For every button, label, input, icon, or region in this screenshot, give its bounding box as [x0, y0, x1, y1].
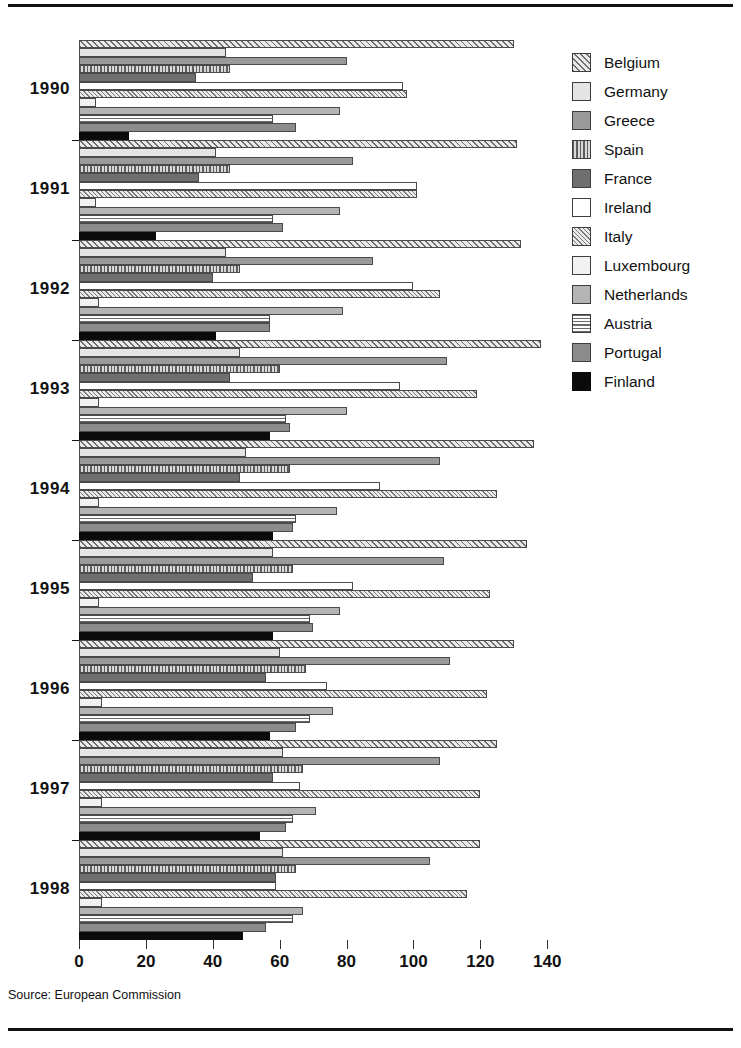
bar-finland[interactable]	[79, 132, 129, 140]
bar-germany[interactable]	[79, 348, 240, 356]
bar-italy[interactable]	[79, 290, 440, 298]
bar-ireland[interactable]	[79, 782, 300, 790]
bar-italy[interactable]	[79, 590, 490, 598]
bar-austria[interactable]	[79, 315, 270, 323]
legend-item-italy[interactable]: Italy	[572, 222, 737, 251]
bar-greece[interactable]	[79, 257, 373, 265]
bar-luxembourg[interactable]	[79, 798, 102, 806]
bar-ireland[interactable]	[79, 682, 327, 690]
bar-netherlands[interactable]	[79, 807, 316, 815]
bar-austria[interactable]	[79, 615, 310, 623]
legend-item-portugal[interactable]: Portugal	[572, 338, 737, 367]
bar-greece[interactable]	[79, 157, 353, 165]
bar-germany[interactable]	[79, 548, 273, 556]
bar-italy[interactable]	[79, 190, 417, 198]
bar-luxembourg[interactable]	[79, 398, 99, 406]
bar-france[interactable]	[79, 573, 253, 581]
bar-spain[interactable]	[79, 465, 290, 473]
bar-portugal[interactable]	[79, 123, 296, 131]
bar-finland[interactable]	[79, 332, 216, 340]
bar-austria[interactable]	[79, 715, 310, 723]
bar-ireland[interactable]	[79, 482, 380, 490]
bar-greece[interactable]	[79, 357, 447, 365]
bar-greece[interactable]	[79, 757, 440, 765]
bar-spain[interactable]	[79, 65, 230, 73]
bar-portugal[interactable]	[79, 323, 270, 331]
bar-greece[interactable]	[79, 857, 430, 865]
bar-spain[interactable]	[79, 165, 230, 173]
bar-france[interactable]	[79, 73, 196, 81]
bar-greece[interactable]	[79, 657, 450, 665]
bar-austria[interactable]	[79, 815, 293, 823]
bar-portugal[interactable]	[79, 523, 293, 531]
bar-germany[interactable]	[79, 648, 280, 656]
bar-belgium[interactable]	[79, 640, 514, 648]
bar-austria[interactable]	[79, 915, 293, 923]
bar-finland[interactable]	[79, 532, 273, 540]
bar-portugal[interactable]	[79, 723, 296, 731]
bar-portugal[interactable]	[79, 223, 283, 231]
bar-netherlands[interactable]	[79, 607, 340, 615]
bar-ireland[interactable]	[79, 282, 413, 290]
bar-austria[interactable]	[79, 515, 296, 523]
bar-ireland[interactable]	[79, 82, 403, 90]
bar-spain[interactable]	[79, 765, 303, 773]
bar-germany[interactable]	[79, 148, 216, 156]
bar-italy[interactable]	[79, 890, 467, 898]
bar-luxembourg[interactable]	[79, 898, 102, 906]
bar-luxembourg[interactable]	[79, 198, 96, 206]
bar-netherlands[interactable]	[79, 207, 340, 215]
bar-portugal[interactable]	[79, 623, 313, 631]
bar-belgium[interactable]	[79, 340, 541, 348]
legend-item-netherlands[interactable]: Netherlands	[572, 280, 737, 309]
bar-italy[interactable]	[79, 390, 477, 398]
bar-france[interactable]	[79, 473, 240, 481]
bar-italy[interactable]	[79, 90, 407, 98]
bar-italy[interactable]	[79, 490, 497, 498]
bar-luxembourg[interactable]	[79, 298, 99, 306]
bar-ireland[interactable]	[79, 882, 276, 890]
bar-belgium[interactable]	[79, 740, 497, 748]
bar-spain[interactable]	[79, 665, 306, 673]
legend-item-austria[interactable]: Austria	[572, 309, 737, 338]
legend-item-france[interactable]: France	[572, 164, 737, 193]
bar-portugal[interactable]	[79, 923, 266, 931]
bar-belgium[interactable]	[79, 140, 517, 148]
legend-item-germany[interactable]: Germany	[572, 77, 737, 106]
bar-germany[interactable]	[79, 848, 283, 856]
bar-france[interactable]	[79, 273, 213, 281]
bar-ireland[interactable]	[79, 582, 353, 590]
bar-greece[interactable]	[79, 457, 440, 465]
bar-belgium[interactable]	[79, 540, 527, 548]
bar-germany[interactable]	[79, 248, 226, 256]
legend-item-ireland[interactable]: Ireland	[572, 193, 737, 222]
bar-spain[interactable]	[79, 265, 240, 273]
bar-greece[interactable]	[79, 557, 444, 565]
bar-france[interactable]	[79, 873, 276, 881]
bar-ireland[interactable]	[79, 382, 400, 390]
bar-austria[interactable]	[79, 415, 286, 423]
bar-netherlands[interactable]	[79, 907, 303, 915]
legend-item-finland[interactable]: Finland	[572, 367, 737, 396]
bar-austria[interactable]	[79, 215, 273, 223]
bar-portugal[interactable]	[79, 423, 290, 431]
bar-belgium[interactable]	[79, 840, 480, 848]
bar-luxembourg[interactable]	[79, 598, 99, 606]
bar-greece[interactable]	[79, 57, 347, 65]
bar-netherlands[interactable]	[79, 507, 337, 515]
bar-finland[interactable]	[79, 632, 273, 640]
bar-italy[interactable]	[79, 690, 487, 698]
bar-portugal[interactable]	[79, 823, 286, 831]
bar-netherlands[interactable]	[79, 107, 340, 115]
bar-spain[interactable]	[79, 565, 293, 573]
bar-italy[interactable]	[79, 790, 480, 798]
bar-germany[interactable]	[79, 448, 246, 456]
bar-belgium[interactable]	[79, 240, 521, 248]
bar-spain[interactable]	[79, 865, 296, 873]
legend-item-greece[interactable]: Greece	[572, 106, 737, 135]
bar-finland[interactable]	[79, 232, 156, 240]
bar-luxembourg[interactable]	[79, 98, 96, 106]
bar-france[interactable]	[79, 373, 230, 381]
legend-item-luxembourg[interactable]: Luxembourg	[572, 251, 737, 280]
bar-ireland[interactable]	[79, 182, 417, 190]
